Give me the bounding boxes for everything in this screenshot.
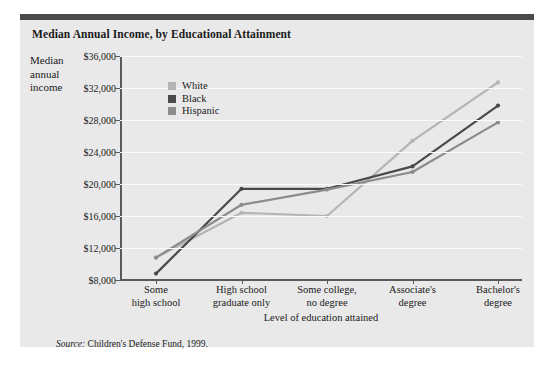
- y-axis-tick: [115, 280, 120, 281]
- data-point: [154, 272, 158, 276]
- y-axis-tick-label: $28,000: [84, 115, 117, 126]
- legend-swatch-icon: [168, 82, 176, 90]
- y-axis-tick: [115, 88, 120, 89]
- data-point: [496, 104, 500, 108]
- x-axis-category-line: no degree: [297, 297, 356, 310]
- y-axis-tick-label: $36,000: [84, 51, 117, 62]
- y-axis-tick-label: $24,000: [84, 147, 117, 158]
- x-axis-category-label: Some college,no degree: [297, 284, 356, 309]
- y-axis-tick: [115, 216, 120, 217]
- source-note: Source: Children's Defense Fund, 1999.: [56, 339, 208, 349]
- y-axis-tick-labels: $8,000$12,000$16,000$20,000$24,000$28,00…: [20, 56, 116, 280]
- y-axis-tick-label: $16,000: [84, 211, 117, 222]
- legend-label: Black: [182, 93, 207, 106]
- y-axis-tick: [115, 56, 120, 57]
- legend-item-black[interactable]: Black: [168, 93, 219, 106]
- x-axis-category-line: High school: [213, 284, 270, 297]
- x-axis-category-label: Somehigh school: [132, 284, 181, 309]
- x-axis-category-line: degree: [389, 297, 436, 310]
- chart-title: Median Annual Income, by Educational Att…: [32, 28, 291, 40]
- data-point: [325, 188, 329, 192]
- y-axis-tick-label: $8,000: [89, 275, 117, 286]
- data-point: [410, 139, 414, 143]
- y-axis-tick-label: $12,000: [84, 243, 117, 254]
- legend-label: White: [182, 80, 208, 93]
- x-axis-tick-labels: Somehigh schoolHigh schoolgraduate onlyS…: [120, 284, 522, 314]
- data-point: [410, 164, 414, 168]
- x-axis-category-line: Bachelor's: [476, 284, 520, 297]
- accent-top-bar: [20, 14, 534, 20]
- gridline: [120, 120, 522, 121]
- data-point: [496, 80, 500, 84]
- data-point: [410, 170, 414, 174]
- legend-swatch-icon: [168, 95, 176, 103]
- x-axis-category-line: Some college,: [297, 284, 356, 297]
- x-axis-category-line: degree: [476, 297, 520, 310]
- data-point: [239, 203, 243, 207]
- gridline: [120, 184, 522, 185]
- data-point: [154, 256, 158, 260]
- x-axis-category-label: High schoolgraduate only: [213, 284, 270, 309]
- y-axis-tick-label: $32,000: [84, 83, 117, 94]
- x-axis-category-line: graduate only: [213, 297, 270, 310]
- x-axis-category-label: Bachelor'sdegree: [476, 284, 520, 309]
- chart-legend: WhiteBlackHispanic: [168, 80, 219, 118]
- gridline: [120, 56, 522, 57]
- gridline: [120, 216, 522, 217]
- data-point: [239, 187, 243, 191]
- x-axis-category-label: Associate'sdegree: [389, 284, 436, 309]
- y-axis-tick: [115, 184, 120, 185]
- chart-figure: Median Annual Income, by Educational Att…: [20, 14, 534, 347]
- legend-item-white[interactable]: White: [168, 80, 219, 93]
- x-axis-title: Level of education attained: [120, 312, 522, 323]
- x-axis-category-line: Some: [132, 284, 181, 297]
- source-text: Children's Defense Fund, 1999.: [88, 339, 208, 349]
- y-axis-tick: [115, 120, 120, 121]
- y-axis-tick-label: $20,000: [84, 179, 117, 190]
- gridline: [120, 248, 522, 249]
- gridline: [120, 152, 522, 153]
- legend-item-hispanic[interactable]: Hispanic: [168, 105, 219, 118]
- y-axis-tick: [115, 152, 120, 153]
- source-label: Source:: [56, 339, 85, 349]
- legend-swatch-icon: [168, 107, 176, 115]
- legend-label: Hispanic: [182, 105, 219, 118]
- data-point: [239, 211, 243, 215]
- y-axis-tick: [115, 248, 120, 249]
- x-axis-category-line: high school: [132, 297, 181, 310]
- x-axis-category-line: Associate's: [389, 284, 436, 297]
